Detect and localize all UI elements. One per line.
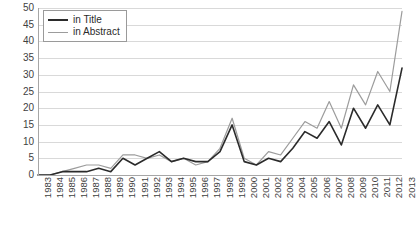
x-axis-tick-label: 1983 <box>42 177 53 198</box>
y-axis-tick-label: 35 <box>4 53 34 63</box>
x-axis-tick-label: 1991 <box>139 177 150 198</box>
x-axis-tick-label: 2010 <box>369 177 380 198</box>
x-axis-tick-label: 1994 <box>175 177 186 198</box>
x-axis-tick-label: 1990 <box>126 177 137 198</box>
y-axis-tick-label: 40 <box>4 36 34 46</box>
y-axis-tick-label: 20 <box>4 103 34 113</box>
x-axis-tick-label: 2002 <box>272 177 283 198</box>
x-axis-tick-labels: 1983198419851986198719881989199019911992… <box>38 177 402 237</box>
x-axis-tick-label: 1993 <box>163 177 174 198</box>
x-axis-tick-label: 1985 <box>66 177 77 198</box>
y-axis-tick-label: 25 <box>4 87 34 97</box>
x-axis-tick-label: 2005 <box>308 177 319 198</box>
line-swatch-gray-icon <box>48 32 68 33</box>
y-axis-tick-label: 10 <box>4 137 34 147</box>
x-axis-tick-label: 1997 <box>211 177 222 198</box>
x-axis-tick-label: 1986 <box>78 177 89 198</box>
y-axis-tick-label: 50 <box>4 3 34 13</box>
y-axis-tick-label: 30 <box>4 70 34 80</box>
x-axis-tick-label: 1987 <box>90 177 101 198</box>
x-axis-tick-label: 2006 <box>321 177 332 198</box>
legend-label: in Abstract <box>73 26 120 38</box>
x-axis-tick-label: 2003 <box>284 177 295 198</box>
x-axis-tick-label: 1989 <box>114 177 125 198</box>
x-axis-tick-label: 1999 <box>236 177 247 198</box>
line-swatch-dark-icon <box>48 19 68 21</box>
x-axis-tick-label: 1992 <box>151 177 162 198</box>
series-line-in-title <box>38 68 402 175</box>
y-axis-tick-label: 45 <box>4 20 34 30</box>
x-axis-tick-label: 2000 <box>248 177 259 198</box>
y-axis-tick-labels: 50454035302520151050 <box>0 0 34 238</box>
x-axis-tick-label: 2007 <box>333 177 344 198</box>
legend: in Title in Abstract <box>43 10 127 42</box>
x-axis-tick-label: 2009 <box>357 177 368 198</box>
x-axis-tick-label: 1998 <box>224 177 235 198</box>
x-axis-tick-label: 2001 <box>260 177 271 198</box>
legend-item-in-abstract: in Abstract <box>48 26 120 38</box>
x-axis-tick-label: 2012 <box>393 177 404 198</box>
x-axis-tick-label: 2013 <box>406 177 417 198</box>
x-axis-tick-label: 1996 <box>199 177 210 198</box>
x-axis-line <box>38 175 402 176</box>
x-axis-tick-label: 1995 <box>187 177 198 198</box>
y-axis-tick-label: 5 <box>4 153 34 163</box>
y-axis-tick-label: 15 <box>4 120 34 130</box>
y-axis-line <box>38 8 39 176</box>
legend-label: in Title <box>73 14 102 26</box>
x-axis-tick-label: 2004 <box>296 177 307 198</box>
legend-item-in-title: in Title <box>48 14 120 26</box>
x-axis-tick-label: 2008 <box>345 177 356 198</box>
y-axis-tick-label: 0 <box>4 170 34 180</box>
x-axis-tick-label: 1984 <box>54 177 65 198</box>
x-axis-tick-label: 1988 <box>102 177 113 198</box>
x-axis-tick-label: 2011 <box>381 177 392 197</box>
